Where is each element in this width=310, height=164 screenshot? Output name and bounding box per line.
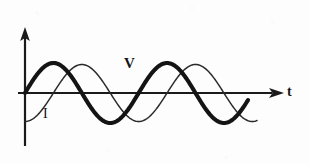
waveform-figure: V I t xyxy=(0,0,310,164)
voltage-curve-label: V xyxy=(124,56,135,71)
time-axis-label: t xyxy=(287,85,292,99)
waveform-plot-area xyxy=(0,0,310,164)
time-axis xyxy=(18,88,284,98)
current-curve-label: I xyxy=(43,107,48,121)
